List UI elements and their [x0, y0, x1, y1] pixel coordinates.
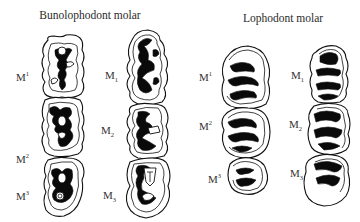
- lophodont-lower-molars-drawing: [304, 46, 350, 206]
- lophodont-upper-molars-drawing: [222, 46, 270, 194]
- bunolophodont-lower-molars-drawing: [126, 30, 170, 218]
- molar-drawings: [0, 0, 360, 222]
- bunolophodont-upper-molars-drawing: [42, 35, 84, 217]
